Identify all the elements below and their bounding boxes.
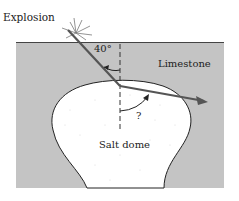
salt-dome-label: Salt dome [99,139,150,150]
seismic-refraction-diagram: Explosion 40° Limestone ? Salt dome [0,0,239,201]
diagram-canvas [0,0,239,201]
incidence-angle-label: 40° [94,43,112,54]
refraction-angle-label: ? [136,110,141,121]
explosion-burst-icon [62,18,92,40]
limestone-label: Limestone [158,58,211,69]
explosion-label: Explosion [3,11,55,23]
